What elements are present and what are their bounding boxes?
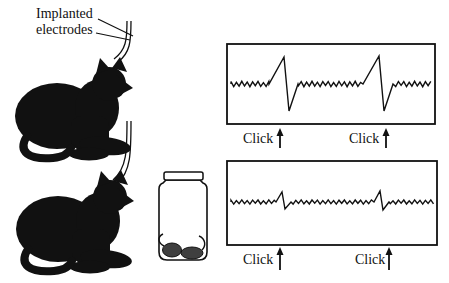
click-label-bottom-2: Click xyxy=(355,252,385,267)
cat-bottom xyxy=(16,170,135,274)
cat-top xyxy=(15,57,134,161)
jar-lid xyxy=(164,172,203,180)
click-arrow-head xyxy=(277,128,284,136)
click-label-top-2: Click xyxy=(349,131,379,146)
click-label-top-1: Click xyxy=(243,131,273,146)
diagram-canvas xyxy=(0,0,449,283)
top-trace-box xyxy=(227,44,435,124)
figure-attention-experiment: Implanted electrodes xyxy=(0,0,449,283)
mouse-jar xyxy=(159,172,207,260)
click-arrow-head xyxy=(383,128,390,136)
click-label-bottom-1: Click xyxy=(243,252,273,267)
electrode-wires-top xyxy=(114,21,131,62)
click-arrow-head xyxy=(386,247,393,255)
click-arrow-head xyxy=(277,247,284,255)
